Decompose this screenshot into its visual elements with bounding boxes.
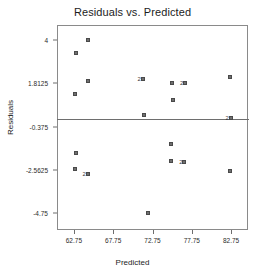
data-point-count-label: 2 (180, 80, 183, 86)
y-axis-title: Residuals (6, 82, 15, 154)
data-point-marker (146, 211, 150, 215)
x-tick-label: 77.75 (184, 237, 200, 244)
data-point-marker (183, 81, 187, 85)
data-point-marker (170, 81, 174, 85)
data-point-marker (171, 98, 175, 102)
zero-reference-line (57, 119, 249, 120)
data-point-marker (86, 79, 90, 83)
data-point-count-label: 2 (179, 159, 182, 165)
data-point-count-label: 2 (138, 76, 141, 82)
data-point-marker (74, 151, 78, 155)
data-point-marker (228, 169, 232, 173)
x-tick-label: 62.75 (66, 237, 82, 244)
y-tick-label: 4 (8, 36, 48, 43)
y-tick-mark (53, 169, 57, 170)
data-point-marker (142, 113, 146, 117)
x-tick-mark (231, 230, 232, 234)
y-tick-mark (53, 126, 57, 127)
x-tick-label: 82.75 (223, 237, 239, 244)
data-point-marker (229, 116, 233, 120)
y-tick-mark (53, 213, 57, 214)
data-point-marker (169, 159, 173, 163)
data-point-marker (86, 38, 90, 42)
chart-title: Residuals vs. Predicted (0, 6, 265, 18)
y-tick-label: -2.5625 (8, 166, 48, 173)
data-point-marker (169, 142, 173, 146)
plot-area (57, 25, 248, 230)
y-tick-mark (53, 83, 57, 84)
x-axis-title: Predicted (0, 258, 265, 267)
data-point-marker (228, 75, 232, 79)
data-point-marker (182, 160, 186, 164)
x-tick-mark (113, 230, 114, 234)
data-point-marker (73, 167, 77, 171)
x-tick-mark (74, 230, 75, 234)
data-point-marker (141, 77, 145, 81)
y-tick-mark (53, 39, 57, 40)
data-point-count-label: 2 (226, 115, 229, 121)
x-tick-mark (192, 230, 193, 234)
y-tick-label: -4.75 (8, 210, 48, 217)
x-tick-label: 72.75 (144, 237, 160, 244)
data-point-marker (74, 51, 78, 55)
data-point-marker (73, 92, 77, 96)
x-tick-label: 67.75 (105, 237, 121, 244)
data-point-marker (86, 172, 90, 176)
data-point-count-label: 2 (82, 171, 85, 177)
x-tick-mark (153, 230, 154, 234)
residual-plot: Residuals vs. Predicted 41.8125-0.375-2.… (0, 0, 265, 280)
